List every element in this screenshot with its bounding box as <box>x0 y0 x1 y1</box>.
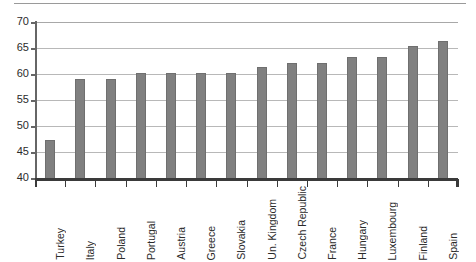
x-axis-label-text: Turkey <box>54 228 66 260</box>
x-tick <box>216 179 217 187</box>
bar <box>317 63 327 178</box>
x-tick <box>186 179 187 187</box>
y-axis-labels: 70656055504540 <box>0 0 29 262</box>
bar <box>226 73 236 178</box>
x-axis-label: Spain <box>436 188 450 260</box>
y-tick-label: 65 <box>5 42 29 53</box>
x-axis-label-text: Czech Republic <box>296 186 308 260</box>
x-axis-label-text: Luxembourg <box>386 202 398 260</box>
y-tick-label: 70 <box>5 16 29 27</box>
x-axis-label: France <box>315 188 329 260</box>
gridline-70 <box>35 22 458 23</box>
x-axis-label: Greece <box>194 188 208 260</box>
gridline-60 <box>35 74 458 75</box>
x-axis-label: Luxembourg <box>375 188 389 260</box>
bar <box>377 57 387 178</box>
bar <box>408 46 418 178</box>
x-tick <box>35 179 36 187</box>
y-tick-label: 55 <box>5 94 29 105</box>
x-axis-label-text: Un. Kingdom <box>266 199 278 260</box>
y-tick-55 <box>31 100 36 102</box>
x-axis-label: Slovakia <box>224 188 238 260</box>
bar <box>75 79 85 178</box>
bar <box>257 67 267 178</box>
x-axis-label-text: Italy <box>84 241 96 260</box>
plot-area <box>35 22 458 178</box>
x-axis-label-text: Poland <box>115 227 127 260</box>
x-tick <box>156 179 157 187</box>
y-tick-label: 60 <box>5 68 29 79</box>
bar <box>438 41 448 178</box>
x-axis-label-text: Austria <box>175 227 187 260</box>
x-axis-label-text: Portugal <box>145 221 157 260</box>
x-axis-label-text: Hungary <box>356 220 368 260</box>
bar <box>287 63 297 178</box>
x-tick <box>95 179 96 187</box>
y-tick-45 <box>31 152 36 154</box>
y-tick-label: 40 <box>5 172 29 183</box>
x-axis-label: Turkey <box>43 188 57 260</box>
y-tick-label: 50 <box>5 120 29 131</box>
x-tick <box>398 179 399 187</box>
x-axis-label-text: Greece <box>205 226 217 260</box>
y-tick-label: 45 <box>5 146 29 157</box>
bar-chart: 70656055504540 TurkeyItalyPolandPortugal… <box>0 0 476 262</box>
x-axis-label: Portugal <box>134 188 148 260</box>
x-axis-label: Italy <box>73 188 87 260</box>
x-tick <box>367 179 368 187</box>
x-tick <box>65 179 66 187</box>
x-axis-label-text: Spain <box>447 233 459 260</box>
bar <box>45 140 55 178</box>
x-tick <box>277 179 278 187</box>
x-tick <box>428 179 429 187</box>
x-tick <box>126 179 127 187</box>
y-tick-60 <box>31 74 36 76</box>
chart-top-border <box>14 3 466 4</box>
x-tick <box>247 179 248 187</box>
x-axis-label: Un. Kingdom <box>255 188 269 260</box>
x-axis-label: Czech Republic <box>285 188 299 260</box>
x-axis-label-text: Slovakia <box>235 220 247 260</box>
x-tick <box>337 179 338 187</box>
y-tick-70 <box>31 22 36 24</box>
bar <box>106 79 116 178</box>
gridline-50 <box>35 126 458 127</box>
bar <box>136 73 146 178</box>
bar <box>166 73 176 178</box>
gridline-65 <box>35 48 458 49</box>
gridline-55 <box>35 100 458 101</box>
x-axis-label: Poland <box>104 188 118 260</box>
x-tick <box>458 179 459 187</box>
x-axis-label-text: Finland <box>417 226 429 260</box>
y-tick-50 <box>31 126 36 128</box>
x-axis-label: Finland <box>406 188 420 260</box>
y-tick-65 <box>31 48 36 50</box>
bar <box>196 73 206 178</box>
x-axis-label: Hungary <box>345 188 359 260</box>
bar <box>347 57 357 178</box>
x-axis-label-text: France <box>326 227 338 260</box>
gridline-45 <box>35 152 458 153</box>
x-axis-label: Austria <box>164 188 178 260</box>
